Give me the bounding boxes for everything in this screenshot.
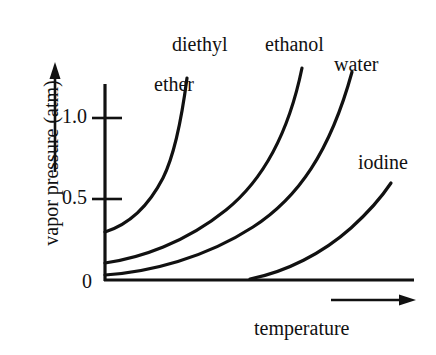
- curve-iodine: [250, 183, 391, 279]
- y-axis-title: vapor pressure (atm): [40, 48, 66, 278]
- y-tick-label-1-0: 1.0: [62, 106, 87, 126]
- curve-label-diethyl-ether-line2: ether: [154, 74, 228, 94]
- vapor-pressure-chart: vapor pressure (atm) 1.0 0.5 0 diethyl e…: [0, 0, 436, 355]
- curve-label-diethyl-ether: diethyl ether: [152, 14, 228, 134]
- curve-label-iodine: iodine: [358, 152, 408, 172]
- x-axis-title: temperature: [254, 318, 350, 338]
- curve-label-ethanol: ethanol: [265, 34, 324, 54]
- curve-label-diethyl-ether-line1: diethyl: [172, 33, 228, 55]
- y-tick-label-0: 0: [82, 271, 92, 291]
- x-axis-direction-arrow: [331, 295, 416, 306]
- y-tick-label-0-5: 0.5: [62, 187, 87, 207]
- curve-label-water: water: [334, 54, 378, 74]
- y-axis-title-text: vapor pressure (atm): [40, 80, 62, 246]
- curve-water: [105, 72, 352, 275]
